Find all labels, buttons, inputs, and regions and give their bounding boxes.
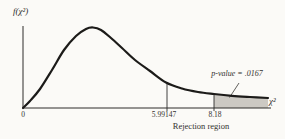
p-value-annotation: p-value = .0167: [211, 70, 262, 78]
rejection-region-label: Rejection region: [173, 122, 229, 131]
tick-label-zero: 0: [21, 111, 25, 119]
density-curve: [23, 27, 268, 108]
chi-square-distribution-figure: f(χ²) χ² 0 5.99147 8.18 Rejection region…: [0, 0, 285, 139]
y-axis-label: f(χ²): [13, 7, 28, 16]
tick-label-test-statistic: 8.18: [208, 111, 221, 119]
tick-label-critical-value: 5.99147: [152, 111, 176, 119]
x-axis-label: χ²: [269, 97, 276, 106]
